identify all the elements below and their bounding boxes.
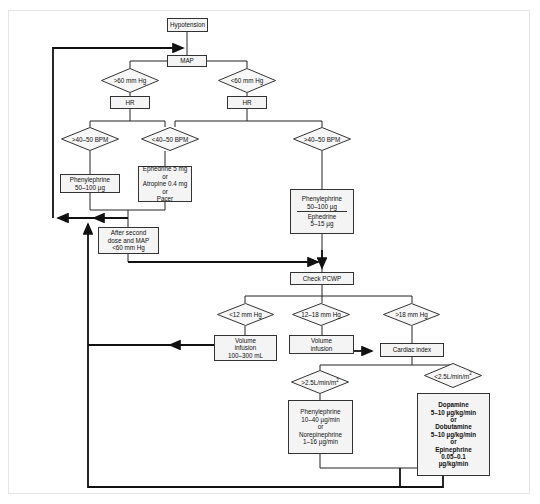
hypotension-box: Hypotension <box>167 18 208 32</box>
drug-line: Ephedrine 5 mg <box>143 165 187 172</box>
dose-line: 50–100 µg <box>307 203 337 210</box>
hr-left-label: HR <box>125 99 134 106</box>
map-low-label: <60 mm Hg <box>231 77 264 84</box>
ci-high-label: >2.5L/min/m2 <box>301 378 338 386</box>
drug-line: Ephedrine <box>308 213 337 220</box>
hr-right-box: HR <box>227 96 267 109</box>
dose-line: 0.05–0.1 <box>441 453 466 460</box>
phenylephrine-ephedrine-box: Phenylephrine 50–100 µg Ephedrine 5–15 µ… <box>290 189 354 234</box>
treatment-line: Volume <box>235 337 256 344</box>
drug-line: Norepinephrine <box>299 431 342 438</box>
or-line: or <box>162 188 168 195</box>
ci-low-label: <2.5L/min/m2 <box>434 371 471 379</box>
map-high-diamond: >60 mm Hg <box>101 68 159 93</box>
condition-line: dose and MAP <box>108 237 149 244</box>
or-line: or <box>162 173 168 180</box>
or-line: or <box>450 438 456 445</box>
phenylephrine-bolus-box: Phenylephrine 50–100 µg <box>60 174 120 193</box>
dose-line: 10–40 µg/min <box>301 416 339 423</box>
dose-line: 5–10 µg/kg/min <box>431 409 476 416</box>
vasopressor-box: Phenylephrine 10–40 µg/min or Norepineph… <box>288 400 353 454</box>
drug-line: Dobutamine <box>435 423 471 430</box>
pcwp-low-diamond: <12 mm Hg <box>217 303 274 326</box>
volume-infusion-low-box: Volume infusion 100–300 mL <box>214 335 277 361</box>
hr-right-high-label: >40–50 BPM <box>304 136 341 143</box>
drug-line: Epinephrine <box>435 446 471 453</box>
pcwp-high-diamond: >18 mm Hg <box>383 303 440 326</box>
ephedrine-atropine-box: Ephedrine 5 mg or Atropine 0.4 mg or Pac… <box>138 166 192 202</box>
or-line: or <box>450 416 456 423</box>
dose-line: 5–15 µg <box>311 220 334 227</box>
hr-right-label: HR <box>242 99 251 106</box>
treatment-line: infusion <box>235 344 257 351</box>
cardiac-index-label: Cardiac index <box>393 346 432 353</box>
drug-line: Phenylephrine <box>70 176 110 183</box>
pcwp-low-label: <12 mm Hg <box>229 311 262 318</box>
map-low-diamond: <60 mm Hg <box>218 68 276 93</box>
cardiac-index-box: Cardiac index <box>380 343 444 357</box>
dose-line: 50–100 µg <box>75 184 105 191</box>
hypotension-label: Hypotension <box>170 21 205 28</box>
pcwp-high-label: >18 mm Hg <box>395 311 428 318</box>
treatment-line: infusion <box>311 345 333 352</box>
dose-line: 100–300 mL <box>228 352 263 359</box>
map-box: MAP <box>167 55 207 67</box>
check-pcwp-box: Check PCWP <box>290 272 354 285</box>
drug-line: Phenylephrine <box>302 195 342 202</box>
volume-infusion-mid-box: Volume infusion <box>289 335 354 354</box>
condition-line: <60 mm Hg <box>112 244 145 251</box>
drug-line: Pacer <box>157 195 173 202</box>
dose-line: 5–10 µg/kg/min <box>431 431 476 438</box>
drug-line: Atropine 0.4 mg <box>143 180 187 187</box>
pcwp-mid-diamond: 12–18 mm Hg <box>292 303 350 326</box>
inotrope-box: Dopamine 5–10 µg/kg/min or Dobutamine 5–… <box>417 393 490 476</box>
drug-line: Phenylephrine <box>300 408 340 415</box>
ci-low-diamond: <2.5L/min/m2 <box>424 363 482 388</box>
hr-left-low-diamond: <40–50 BPM <box>141 127 199 151</box>
drug-line: Dopamine <box>438 401 468 408</box>
ci-high-diamond: >2.5L/min/m2 <box>291 370 349 394</box>
divider <box>297 211 347 212</box>
hr-left-high-diamond: >40–50 BPM <box>61 127 119 151</box>
map-label: MAP <box>180 57 194 64</box>
or-line: or <box>318 423 324 430</box>
hr-right-high-diamond: >40–50 BPM <box>293 127 351 151</box>
hr-left-box: HR <box>110 96 150 109</box>
hr-left-high-label: >40–50 BPM <box>72 136 109 143</box>
map-high-label: >60 mm Hg <box>114 77 147 84</box>
hr-left-low-label: <40–50 BPM <box>152 136 189 143</box>
condition-line: After second <box>111 229 146 236</box>
after-second-dose-box: After second dose and MAP <60 mm Hg <box>98 227 159 254</box>
treatment-line: Volume <box>311 337 332 344</box>
pcwp-mid-label: 12–18 mm Hg <box>301 311 341 318</box>
dose-line: 1–16 µg/min <box>303 438 338 445</box>
dose-line: µg/kg/min <box>439 460 469 467</box>
check-pcwp-label: Check PCWP <box>303 275 342 282</box>
